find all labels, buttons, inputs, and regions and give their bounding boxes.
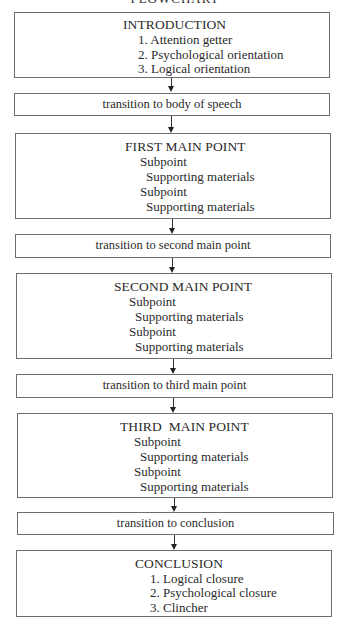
- flowchart-title: FLOWCHART: [0, 0, 350, 7]
- supporting-materials: Supporting materials: [146, 169, 255, 184]
- subpoint: Subpoint: [129, 324, 176, 339]
- transition-box-second: transition to second main point: [15, 234, 331, 258]
- conclusion-item-2: 2. Psychological closure: [150, 585, 277, 600]
- third-main-point-heading: THIRD MAIN POINT: [120, 419, 249, 434]
- conclusion-item-3: 3. Clincher: [150, 600, 208, 615]
- subpoint: Subpoint: [129, 294, 176, 309]
- introduction-item-3: 3. Logical orientation: [138, 61, 250, 76]
- subpoint: Subpoint: [140, 184, 187, 199]
- subpoint: Subpoint: [134, 464, 181, 479]
- first-main-point-heading: FIRST MAIN POINT: [125, 139, 246, 154]
- supporting-materials: Supporting materials: [135, 339, 244, 354]
- transition-box-body: transition to body of speech: [14, 93, 330, 116]
- introduction-item-2: 2. Psychological orientation: [138, 47, 284, 62]
- conclusion-heading: CONCLUSION: [135, 556, 223, 571]
- introduction-item-1: 1. Attention getter: [138, 32, 232, 47]
- supporting-materials: Supporting materials: [140, 479, 249, 494]
- supporting-materials: Supporting materials: [146, 199, 255, 214]
- supporting-materials: Supporting materials: [135, 309, 244, 324]
- conclusion-item-1: 1. Logical closure: [150, 571, 244, 586]
- introduction-heading: INTRODUCTION: [123, 17, 226, 32]
- second-main-point-heading: SECOND MAIN POINT: [114, 279, 252, 294]
- supporting-materials: Supporting materials: [140, 449, 249, 464]
- subpoint: Subpoint: [134, 434, 181, 449]
- subpoint: Subpoint: [140, 154, 187, 169]
- arrow-down-icon: [168, 86, 174, 92]
- transition-box-third: transition to third main point: [16, 374, 333, 398]
- transition-box-conclusion: transition to conclusion: [17, 512, 334, 535]
